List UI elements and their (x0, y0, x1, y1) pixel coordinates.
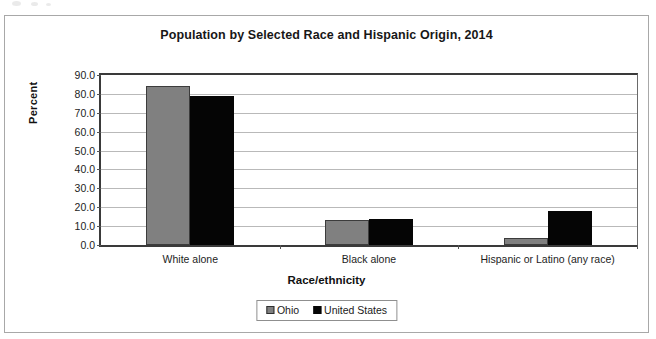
scan-artifact-icon (31, 2, 38, 6)
y-axis-tick-label: 60.0 (75, 126, 95, 138)
bar-united-states-2[interactable] (548, 211, 592, 245)
chart-title: Population by Selected Race and Hispanic… (5, 28, 648, 42)
y-axis-tick-mark (97, 226, 101, 227)
legend-item-ohio[interactable]: Ohio (266, 304, 299, 316)
y-axis-tick-mark (97, 188, 101, 189)
x-axis-tick-mark (637, 245, 638, 249)
plot-area: 90.080.070.060.050.040.030.020.010.00.0W… (99, 73, 638, 247)
legend-swatch-icon (313, 306, 321, 314)
x-axis-tick-mark (458, 245, 459, 249)
chart-legend: Ohio United States (256, 300, 397, 321)
y-axis-tick-mark (97, 207, 101, 208)
scan-artifact-icon (46, 3, 51, 6)
y-axis-tick-label: 40.0 (75, 163, 95, 175)
scan-artifact-icon (12, 1, 21, 6)
x-axis-tick-mark (280, 245, 281, 249)
y-axis-tick-label: 70.0 (75, 107, 95, 119)
y-axis-tick-mark (97, 245, 101, 246)
bar-ohio-1[interactable] (325, 220, 369, 245)
legend-swatch-icon (266, 306, 274, 314)
legend-label: Ohio (277, 304, 299, 316)
y-axis-tick-mark (97, 113, 101, 114)
y-axis-title: Percent (27, 82, 39, 124)
bar-united-states-0[interactable] (190, 96, 234, 245)
chart-screenshot: Population by Selected Race and Hispanic… (0, 0, 656, 339)
bar-ohio-2[interactable] (504, 238, 548, 245)
x-axis-title: Race/ethnicity (5, 274, 648, 286)
bar-ohio-0[interactable] (146, 86, 190, 245)
y-axis-tick-mark (97, 151, 101, 152)
legend-item-united-states[interactable]: United States (313, 304, 387, 316)
y-axis-tick-label: 80.0 (75, 88, 95, 100)
x-axis-tick-label: Black alone (342, 253, 396, 265)
y-axis-tick-label: 50.0 (75, 145, 95, 157)
y-axis-tick-label: 30.0 (75, 182, 95, 194)
y-axis-tick-label: 90.0 (75, 69, 95, 81)
y-axis-tick-label: 10.0 (75, 220, 95, 232)
x-axis-tick-label: Hispanic or Latino (any race) (481, 253, 615, 265)
y-axis-tick-mark (97, 75, 101, 76)
chart-container: Population by Selected Race and Hispanic… (4, 15, 649, 333)
bar-united-states-1[interactable] (369, 219, 413, 245)
plot-wrapper: 90.080.070.060.050.040.030.020.010.00.0W… (99, 73, 638, 247)
x-axis-tick-label: White alone (163, 253, 218, 265)
y-axis-tick-mark (97, 132, 101, 133)
y-axis-tick-mark (97, 169, 101, 170)
y-axis-tick-mark (97, 94, 101, 95)
legend-label: United States (324, 304, 387, 316)
y-axis-tick-label: 0.0 (80, 239, 95, 251)
y-axis-tick-label: 20.0 (75, 201, 95, 213)
